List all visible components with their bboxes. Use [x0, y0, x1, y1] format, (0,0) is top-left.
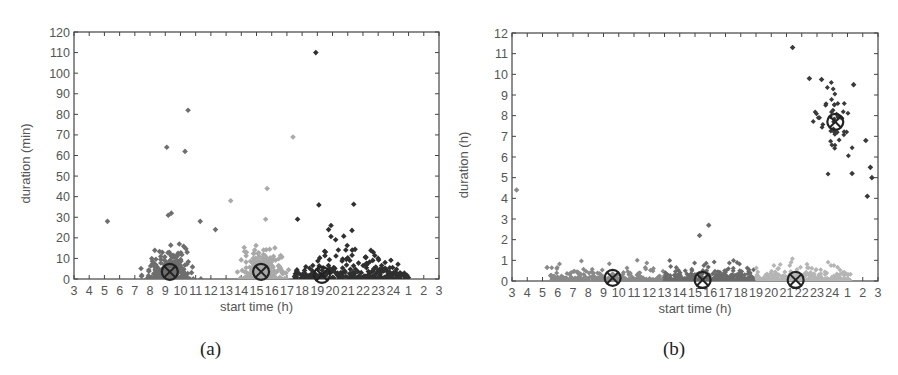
x-tick-label: 7 [570, 286, 577, 300]
y-tick-label: 7 [501, 130, 508, 144]
x-tick-label: 24 [386, 284, 400, 298]
x-tick-label: 17 [280, 284, 294, 298]
y-tick-label: 10 [494, 68, 508, 82]
x-tick-label: 8 [585, 286, 592, 300]
y-tick-label: 50 [56, 170, 70, 184]
x-tick-label: 15 [250, 284, 264, 298]
scatter-points [105, 50, 411, 282]
x-tick-label: 10 [174, 284, 188, 298]
x-tick-label: 3 [509, 286, 516, 300]
y-tick-label: 1 [501, 254, 508, 268]
y-tick-label: 80 [56, 108, 70, 122]
x-tick-label: 9 [162, 284, 169, 298]
x-tick-label: 23 [810, 286, 824, 300]
y-tick-label: 9 [501, 89, 508, 103]
x-tick-label: 19 [749, 286, 763, 300]
x-tick-label: 10 [612, 286, 626, 300]
plot-frame [512, 33, 878, 281]
y-tick-label: 6 [501, 151, 508, 165]
x-tick-label: 9 [600, 286, 607, 300]
figure: 3456789101112131415161718192021222324123… [0, 0, 898, 375]
y-axis-label: duration (h) [456, 132, 471, 198]
y-tick-label: 4 [501, 192, 508, 206]
x-tick-label: 5 [101, 284, 108, 298]
x-tick-label: 21 [341, 284, 355, 298]
x-tick-label: 22 [356, 284, 370, 298]
x-tick-label: 12 [642, 286, 656, 300]
x-tick-label: 21 [780, 286, 794, 300]
centroid-marker-icon [827, 114, 843, 130]
x-tick-label: 17 [719, 286, 733, 300]
x-axis-label: start time (h) [220, 299, 293, 314]
y-tick-label: 11 [495, 47, 508, 61]
caption-a: (a) [200, 338, 221, 360]
x-tick-label: 11 [189, 284, 202, 298]
x-tick-label: 13 [658, 286, 672, 300]
y-tick-label: 0 [63, 273, 70, 287]
x-tick-label: 5 [539, 286, 546, 300]
plot-frame [74, 32, 439, 279]
x-tick-label: 13 [219, 284, 233, 298]
x-tick-label: 18 [734, 286, 748, 300]
y-tick-label: 70 [56, 128, 70, 142]
chart-panel-b: 3456789101112131415161718192021222324123… [456, 27, 882, 317]
x-tick-label: 14 [234, 284, 248, 298]
x-tick-label: 4 [86, 284, 93, 298]
y-tick-label: 30 [56, 211, 70, 225]
x-tick-label: 24 [825, 286, 839, 300]
x-tick-label: 1 [405, 284, 412, 298]
scatter-points [514, 45, 875, 283]
x-tick-label: 11 [628, 286, 641, 300]
y-tick-label: 2 [501, 233, 508, 247]
x-tick-label: 8 [147, 284, 154, 298]
x-tick-label: 3 [436, 284, 443, 298]
y-tick-label: 60 [56, 149, 70, 163]
y-tick-label: 100 [49, 67, 70, 81]
y-tick-label: 12 [494, 27, 508, 41]
x-tick-label: 6 [116, 284, 123, 298]
x-tick-label: 14 [673, 286, 687, 300]
x-tick-label: 16 [265, 284, 279, 298]
y-tick-label: 5 [501, 171, 508, 185]
y-axis-label: duration (min) [18, 123, 33, 203]
x-tick-label: 1 [844, 286, 851, 300]
y-tick-label: 40 [56, 190, 70, 204]
x-tick-label: 20 [326, 284, 340, 298]
y-tick-label: 10 [56, 252, 70, 266]
y-tick-label: 120 [49, 26, 70, 40]
caption-b: (b) [663, 338, 685, 360]
x-tick-label: 7 [131, 284, 138, 298]
chart-panel-a: 3456789101112131415161718192021222324123… [18, 26, 443, 315]
x-axis-label: start time (h) [659, 301, 732, 316]
y-tick-label: 3 [501, 213, 508, 227]
y-tick-label: 110 [50, 46, 70, 60]
y-tick-label: 8 [501, 109, 508, 123]
x-tick-label: 20 [764, 286, 778, 300]
x-tick-label: 2 [420, 284, 427, 298]
x-tick-label: 23 [371, 284, 385, 298]
x-tick-label: 19 [310, 284, 324, 298]
x-tick-label: 6 [554, 286, 561, 300]
y-tick-label: 20 [56, 231, 70, 245]
y-tick-label: 90 [56, 87, 70, 101]
x-tick-label: 4 [524, 286, 531, 300]
x-tick-label: 2 [859, 286, 866, 300]
x-tick-label: 12 [204, 284, 218, 298]
x-tick-label: 3 [71, 284, 78, 298]
x-tick-label: 3 [875, 286, 882, 300]
y-tick-label: 0 [501, 275, 508, 289]
x-tick-label: 18 [295, 284, 309, 298]
